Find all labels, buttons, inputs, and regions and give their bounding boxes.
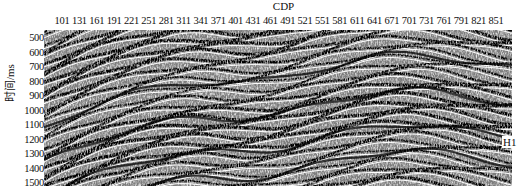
x-axis-label: CDP — [0, 0, 523, 12]
y-axis-label: 时间/ms — [1, 88, 17, 102]
x-tick-label: 131 — [72, 15, 87, 26]
x-tick-label: 761 — [436, 15, 451, 26]
x-tick-label: 251 — [141, 15, 156, 26]
y-tick-label: 800 — [29, 75, 44, 86]
x-tick-label: 821 — [471, 15, 486, 26]
x-tick-label: 791 — [454, 15, 469, 26]
y-tick-label: 1000 — [24, 104, 44, 115]
y-tick-label: 1300 — [24, 148, 44, 159]
x-tick-label: 221 — [124, 15, 139, 26]
x-tick-label: 521 — [298, 15, 313, 26]
x-tick-label: 491 — [280, 15, 295, 26]
x-tick-label: 281 — [159, 15, 174, 26]
seismic-section — [44, 30, 512, 186]
x-axis-ticks: 1011311611912212512813113413714014314614… — [0, 15, 523, 29]
x-tick-label: 341 — [193, 15, 208, 26]
x-tick-label: 611 — [350, 15, 364, 26]
x-tick-label: 191 — [107, 15, 122, 26]
x-tick-label: 461 — [263, 15, 278, 26]
x-tick-label: 371 — [211, 15, 226, 26]
x-tick-label: 701 — [402, 15, 417, 26]
y-tick-label: 1400 — [24, 162, 44, 173]
x-tick-label: 161 — [89, 15, 104, 26]
x-tick-label: 551 — [315, 15, 330, 26]
x-tick-label: 671 — [384, 15, 399, 26]
y-tick-label: 600 — [29, 46, 44, 57]
x-tick-label: 431 — [246, 15, 261, 26]
x-tick-label: 581 — [332, 15, 347, 26]
y-tick-label: 700 — [29, 61, 44, 72]
x-tick-label: 401 — [228, 15, 243, 26]
x-tick-label: 731 — [419, 15, 434, 26]
x-tick-label: 311 — [176, 15, 190, 26]
x-tick-label: 851 — [489, 15, 504, 26]
x-tick-label: 641 — [367, 15, 382, 26]
horizon-label-h1: H1 — [502, 136, 517, 148]
y-tick-label: 1500 — [24, 177, 44, 188]
y-tick-label: 1200 — [24, 133, 44, 144]
y-tick-label: 900 — [29, 90, 44, 101]
y-tick-label: 500 — [29, 32, 44, 43]
x-tick-label: 101 — [55, 15, 70, 26]
y-tick-label: 1100 — [25, 119, 44, 130]
